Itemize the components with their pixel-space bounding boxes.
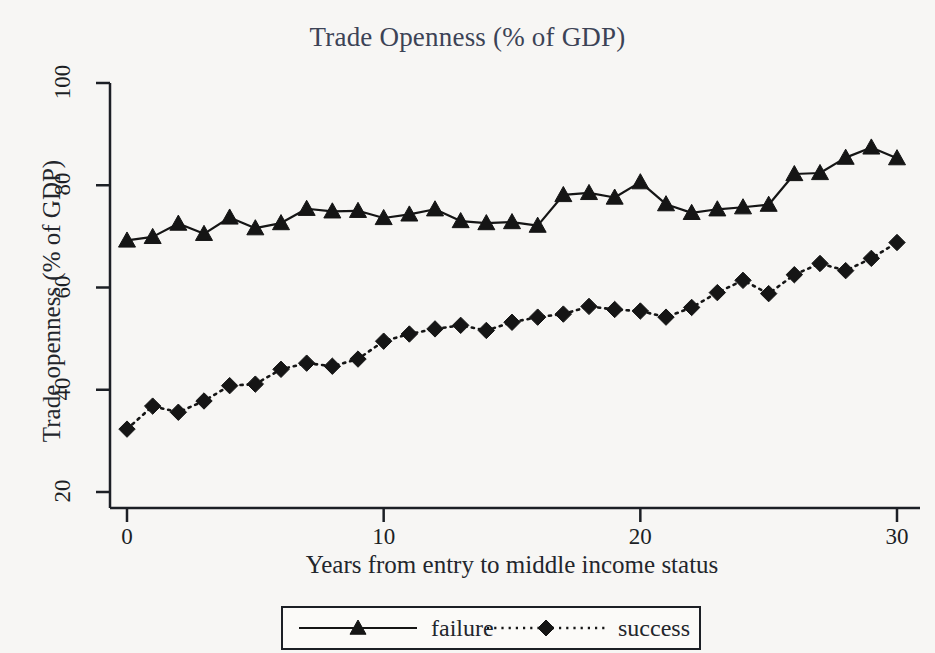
data-point-failure <box>837 149 854 164</box>
data-point-failure <box>221 209 238 224</box>
y-axis-tick-label: 100 <box>50 52 76 112</box>
data-point-failure <box>889 150 906 165</box>
data-point-success <box>273 361 289 377</box>
data-point-success <box>683 299 699 315</box>
data-point-success <box>196 393 212 409</box>
data-point-success <box>452 317 468 333</box>
data-point-success <box>427 321 443 337</box>
data-point-success <box>324 358 340 374</box>
data-point-success <box>606 301 622 317</box>
data-point-success <box>658 309 674 325</box>
x-axis-title: Years from entry to middle income status <box>127 551 897 579</box>
data-point-failure <box>144 228 161 243</box>
data-point-success <box>555 306 571 322</box>
data-point-success <box>735 272 751 288</box>
data-point-success <box>144 398 160 414</box>
data-point-failure <box>170 215 187 230</box>
chart-figure: Trade Openness (% of GDP) 20406080100 01… <box>0 0 935 653</box>
data-point-success <box>504 314 520 330</box>
data-point-success <box>170 404 186 420</box>
y-axis-ticks <box>96 83 110 492</box>
data-point-failure <box>273 215 290 230</box>
data-point-success <box>889 234 905 250</box>
series-success <box>119 234 905 437</box>
legend-label-failure: failure <box>431 615 494 642</box>
data-point-success <box>837 262 853 278</box>
data-point-failure <box>504 214 521 229</box>
axes <box>110 83 920 508</box>
data-point-failure <box>452 213 469 228</box>
x-axis-tick-label: 10 <box>354 524 414 550</box>
x-axis-tick-label: 0 <box>97 524 157 550</box>
data-point-success <box>632 303 648 319</box>
data-point-success <box>529 309 545 325</box>
series-line-success <box>127 243 897 430</box>
series-failure <box>119 139 906 247</box>
data-point-failure <box>581 184 598 199</box>
legend-label-success: success <box>618 615 690 642</box>
legend-marker-success <box>538 620 554 636</box>
data-point-success <box>247 376 263 392</box>
data-point-success <box>375 333 391 349</box>
data-point-failure <box>427 201 444 216</box>
data-point-success <box>760 285 776 301</box>
data-point-failure <box>812 164 829 179</box>
x-axis-tick-label: 30 <box>867 524 927 550</box>
data-point-success <box>350 351 366 367</box>
data-point-failure <box>863 139 880 154</box>
data-point-success <box>478 322 494 338</box>
data-point-failure <box>298 200 315 215</box>
data-point-success <box>581 298 597 314</box>
data-point-success <box>709 284 725 300</box>
data-series-group <box>119 139 906 437</box>
data-point-success <box>221 377 237 393</box>
x-axis-ticks <box>127 508 897 522</box>
chart-legend: failure success <box>281 606 701 650</box>
data-point-success <box>863 250 879 266</box>
data-point-success <box>786 267 802 283</box>
data-point-success <box>401 326 417 342</box>
data-point-success <box>298 355 314 371</box>
y-axis-title: Trade openness (% of GDP) <box>38 131 66 471</box>
data-point-failure <box>196 225 213 240</box>
data-point-success <box>812 255 828 271</box>
x-axis-tick-label: 20 <box>610 524 670 550</box>
data-point-failure <box>632 174 649 189</box>
